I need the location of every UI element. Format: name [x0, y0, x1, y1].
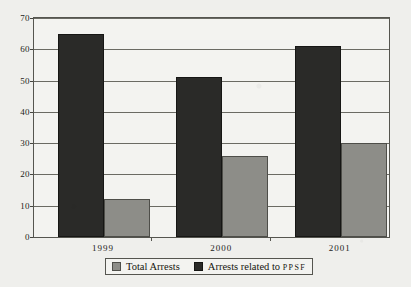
- legend-swatch-total-arrests: [112, 262, 121, 271]
- y-tick-label-50: 50: [2, 76, 30, 86]
- y-axis: 010203040506070: [0, 17, 30, 238]
- bar-total-2001: [341, 143, 387, 237]
- y-tick-label-0: 0: [2, 232, 30, 242]
- chart-legend: Total Arrests Arrests related to PPSF: [105, 258, 313, 275]
- plot-area: [33, 17, 390, 238]
- bar-ppsf-2001: [295, 46, 341, 237]
- bar-chart: 010203040506070 199920002001 Total Arres…: [0, 0, 411, 287]
- legend-swatch-ppsf-arrests: [194, 262, 203, 271]
- bar-ppsf-1999: [58, 34, 104, 237]
- legend-label-ppsf-prefix: Arrests related to: [208, 261, 283, 272]
- y-tick-label-60: 60: [2, 44, 30, 54]
- legend-label-ppsf-abbrev: PPSF: [283, 263, 306, 272]
- bar-total-2000: [222, 156, 268, 237]
- y-tick-label-40: 40: [2, 107, 30, 117]
- y-tick-label-30: 30: [2, 138, 30, 148]
- y-tick-label-10: 10: [2, 201, 30, 211]
- x-tick-label-2001: 2001: [329, 243, 351, 253]
- legend-label-ppsf-arrests: Arrests related to PPSF: [208, 261, 306, 272]
- x-axis: 199920002001: [33, 240, 390, 256]
- legend-item-ppsf-arrests: Arrests related to PPSF: [194, 261, 306, 272]
- y-tick-label-70: 70: [2, 13, 30, 23]
- y-tick-label-20: 20: [2, 169, 30, 179]
- x-tick-label-1999: 1999: [92, 243, 114, 253]
- legend-label-total-arrests: Total Arrests: [126, 261, 180, 272]
- x-tick-mark-2: [270, 238, 271, 241]
- legend-item-total-arrests: Total Arrests: [112, 261, 180, 272]
- bar-ppsf-2000: [176, 77, 222, 237]
- bar-total-1999: [104, 199, 150, 237]
- x-tick-label-2000: 2000: [210, 243, 232, 253]
- gridline-70: [34, 18, 389, 19]
- x-tick-mark-1: [151, 238, 152, 241]
